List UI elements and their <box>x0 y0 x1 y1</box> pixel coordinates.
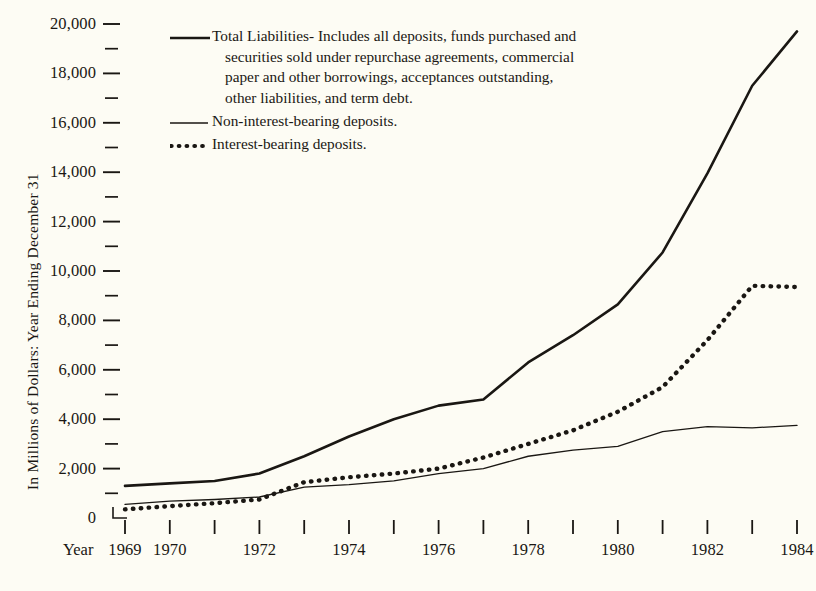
x-axis-tick-label: 1984 <box>780 540 813 560</box>
x-axis-tick-label: 1976 <box>422 540 455 560</box>
x-axis-tick-label: 1982 <box>691 540 724 560</box>
x-axis-tick-label: 1970 <box>153 540 186 560</box>
x-axis-tick-label: 1969 <box>108 540 141 560</box>
x-axis-tick-label: 1972 <box>243 540 276 560</box>
series-line-0 <box>125 31 797 485</box>
plot-area <box>0 0 816 591</box>
x-axis-tick-label: 1980 <box>601 540 634 560</box>
chart-figure: In Millions of Dollars: Year Ending Dece… <box>0 0 816 591</box>
series-line-2 <box>125 286 797 510</box>
x-axis-tick-label: 1978 <box>511 540 544 560</box>
x-axis-tick-label: 1974 <box>332 540 365 560</box>
